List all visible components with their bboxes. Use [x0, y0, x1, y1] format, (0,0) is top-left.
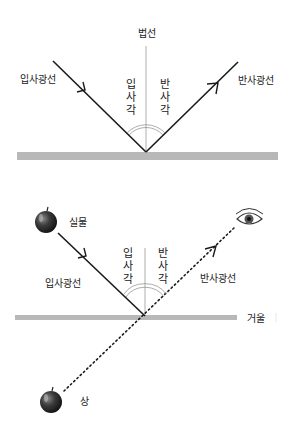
- incident-ray-label: 입사광선: [45, 277, 81, 289]
- incident-angle-label: 입 사 각: [123, 247, 133, 286]
- reflected-ray-label: 반사광선: [200, 273, 236, 284]
- svg-text:반: 반: [158, 247, 168, 260]
- incident-arrow-icon: [77, 82, 85, 92]
- incident-angle-label: 입 사 각: [126, 78, 136, 117]
- svg-text:각: 각: [123, 273, 133, 286]
- bottom-mirror-image-diagram: 거울 입 사 각 반 사 각 입사광선 반사광선 실물: [15, 207, 276, 413]
- svg-text:사: 사: [123, 260, 133, 273]
- svg-text:각: 각: [160, 104, 170, 117]
- apple-object-icon: [35, 207, 57, 233]
- svg-text:사: 사: [160, 91, 170, 104]
- svg-text:각: 각: [126, 104, 136, 117]
- sight-line-dotted: [64, 227, 235, 391]
- svg-text:입: 입: [126, 78, 136, 91]
- eye-icon: [236, 209, 263, 225]
- reflection-diagram: 법선 입사광선 반사광선 입 사 각 반 사 각 거울: [0, 0, 293, 431]
- image-label: 상: [80, 396, 89, 407]
- reflected-ray-label: 반사광선: [238, 75, 274, 86]
- incident-ray-label: 입사광선: [20, 73, 56, 85]
- object-label: 실물: [69, 217, 87, 228]
- reflected-angle-label: 반 사 각: [158, 247, 168, 286]
- top-reflection-diagram: 법선 입사광선 반사광선 입 사 각 반 사 각: [17, 28, 278, 160]
- mirror: [15, 315, 237, 320]
- mirror-label: 거울: [247, 313, 265, 324]
- reflected-angle-label: 반 사 각: [160, 78, 170, 117]
- svg-text:입: 입: [123, 247, 133, 260]
- mirror-surface: [17, 152, 278, 160]
- svg-text:사: 사: [158, 260, 168, 273]
- svg-text:사: 사: [126, 91, 136, 104]
- apple-image-icon: [40, 387, 62, 413]
- svg-text:반: 반: [160, 78, 170, 91]
- reflected-arrow-icon: [207, 83, 218, 94]
- svg-text:각: 각: [158, 273, 168, 286]
- normal-label: 법선: [138, 28, 156, 39]
